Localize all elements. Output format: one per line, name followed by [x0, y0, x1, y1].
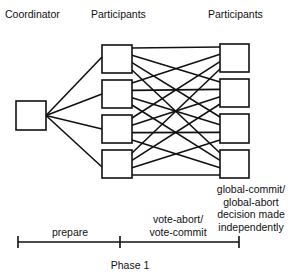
decision-line-1: global-commit/: [213, 183, 289, 196]
decision-line-2: global-abort: [213, 196, 289, 209]
edge-coordinator-to-participant: [46, 57, 102, 116]
participant-node-right: [220, 150, 249, 178]
coordinator-node: [16, 101, 46, 130]
edge-coordinator-to-participant: [46, 94, 102, 116]
participant-node-left: [102, 80, 132, 108]
edge-participant-to-participant: [132, 47, 220, 48]
vote-label: vote-abort/ vote-commit: [128, 213, 228, 238]
prepare-label: prepare: [38, 226, 102, 238]
participant-node-left: [102, 115, 132, 143]
edge-coordinator-to-participant: [46, 116, 102, 168]
participant-node-right: [220, 79, 249, 107]
vote-line-2: vote-commit: [128, 226, 228, 239]
participants-right-header: Participants: [208, 8, 263, 20]
participants-left-header: Participants: [91, 8, 146, 20]
participant-node-left: [102, 45, 132, 73]
participant-node-left: [102, 150, 132, 178]
participant-node-right: [220, 44, 249, 72]
vote-line-1: vote-abort/: [128, 213, 228, 226]
coordinator-header: Coordinator: [5, 8, 60, 20]
participant-node-right: [220, 114, 249, 143]
phase-label: Phase 1: [95, 259, 165, 271]
